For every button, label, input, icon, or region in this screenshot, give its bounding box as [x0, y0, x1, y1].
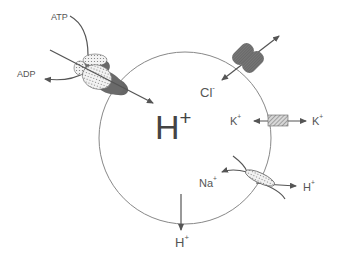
v-atpase-pump — [45, 16, 153, 103]
lumen-proton-label: H+ — [155, 110, 191, 144]
exchanger-proton-label: H+ — [303, 182, 315, 193]
chloride-channel — [222, 36, 279, 80]
potassium-left-label: K+ — [230, 116, 241, 127]
potassium-right-label: K+ — [312, 116, 323, 127]
atp-label: ATP — [51, 13, 68, 22]
adp-label: ADP — [17, 70, 36, 79]
sodium-label: Na+ — [199, 178, 217, 189]
chloride-label: Cl- — [200, 86, 215, 99]
leak-proton-label: H+ — [175, 236, 189, 249]
potassium-channel — [254, 115, 306, 126]
na-h-exchanger — [222, 156, 296, 199]
